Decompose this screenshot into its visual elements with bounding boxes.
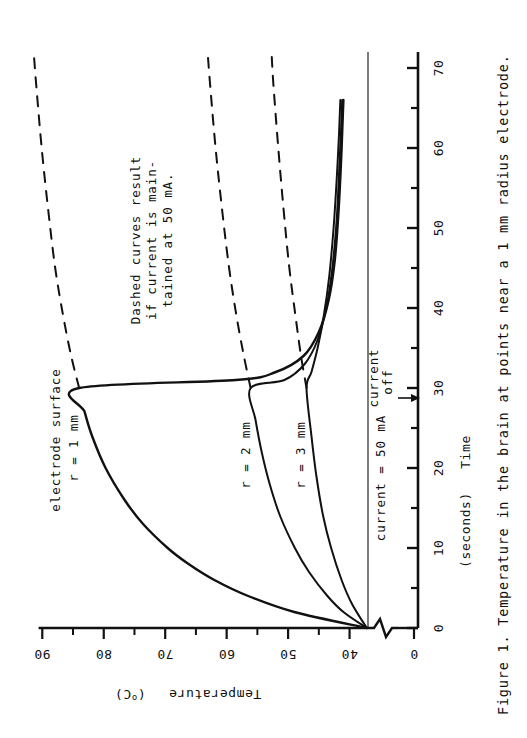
rotated-line-chart: 4050607080900010203040506070 Time (secon… [0, 0, 527, 738]
curve-label-r2: r = 2 mm [238, 421, 253, 488]
x-axis-unit: (seconds) [458, 492, 473, 568]
current-value-label: current = 50 mA [373, 415, 388, 541]
y-axis-title: Temperature [169, 687, 262, 702]
time-tick-label: 70 [431, 60, 446, 77]
dashed-note-line1: Dashed curves result [128, 156, 143, 325]
dashed-note-line3: tained at 50 mA. [160, 173, 175, 308]
dashed-note-line2: if current is main- [144, 160, 159, 320]
temperature-tick-label: 90 [34, 647, 51, 662]
time-tick-label: 40 [431, 300, 446, 317]
curve-label-r1-line1: electrode surface [48, 368, 63, 511]
time-tick-label: 20 [431, 460, 446, 477]
current-off-label-line1: current [366, 349, 381, 408]
curve-label-r3: r = 3 mm [293, 421, 308, 488]
time-tick-label: 60 [431, 140, 446, 157]
y-axis-unit: (oC) [114, 687, 145, 703]
figure-caption: Figure 1. Temperature in the brain at po… [495, 54, 511, 715]
current-off-label-line2: off [380, 369, 395, 394]
temperature-tick-label: 80 [95, 647, 112, 662]
time-tick-label: 10 [431, 540, 446, 557]
temperature-tick-label: 70 [157, 647, 174, 662]
temperature-tick-label: 50 [280, 647, 297, 662]
temperature-tick-label: 60 [218, 647, 235, 662]
curve-label-r1-line2: r = 1 mm [66, 414, 81, 481]
time-tick-label: 30 [431, 380, 446, 397]
temperature-origin-tick-label: 0 [410, 647, 418, 662]
time-tick-label: 0 [431, 624, 446, 632]
time-tick-label: 50 [431, 220, 446, 237]
caption-text: Figure 1. Temperature in the brain at po… [495, 54, 511, 715]
temperature-tick-label: 40 [341, 647, 358, 662]
figure-container: 4050607080900010203040506070 Time (secon… [0, 0, 527, 738]
x-axis-title: Time [458, 435, 473, 469]
